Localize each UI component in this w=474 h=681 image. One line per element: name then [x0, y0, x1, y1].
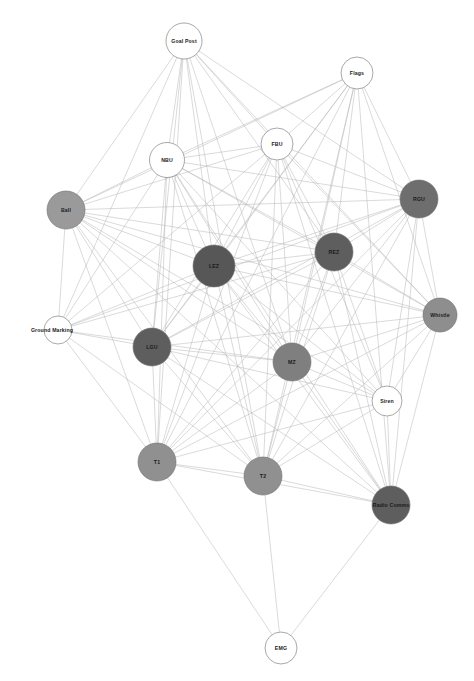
graph-edge [58, 160, 167, 330]
graph-edge [157, 41, 184, 462]
graph-node-lgu[interactable]: LGU [133, 328, 171, 366]
graph-node-radio_comms[interactable]: Radio Comms [372, 486, 410, 524]
graph-edge [184, 41, 419, 199]
graph-edge [152, 199, 419, 347]
node-circle-mz[interactable] [273, 343, 311, 381]
graph-edge [157, 266, 214, 462]
node-circle-lez[interactable] [193, 245, 235, 287]
node-circle-emg[interactable] [265, 632, 297, 664]
graph-node-fbu[interactable]: FBU [261, 128, 293, 160]
graph-edge [277, 144, 440, 315]
node-circle-rgu[interactable] [400, 180, 438, 218]
graph-edge [66, 210, 334, 252]
graph-node-t1[interactable]: T1 [138, 443, 176, 481]
graph-edge [152, 160, 167, 347]
graph-node-flags[interactable]: Flags [341, 57, 373, 89]
graph-edge [277, 144, 419, 199]
graph-edge [214, 266, 387, 401]
graph-edge [292, 362, 391, 505]
graph-edge [167, 160, 419, 199]
node-circle-t1[interactable] [138, 443, 176, 481]
graph-edge [184, 41, 277, 144]
node-circle-goal_post[interactable] [166, 23, 202, 59]
graph-edge [263, 476, 391, 505]
graph-edge [157, 160, 167, 462]
nodes-layer: Goal PostFlagsFBUNBURGUBallREZLEZWhistle… [31, 23, 457, 664]
graph-edge [167, 160, 263, 476]
graph-edge [357, 73, 391, 505]
graph-edge [66, 199, 419, 210]
graph-node-goal_post[interactable]: Goal Post [166, 23, 202, 59]
graph-node-nbu[interactable]: NBU [150, 143, 185, 178]
node-circle-rez[interactable] [315, 233, 353, 271]
node-circle-flags[interactable] [341, 57, 373, 89]
node-circle-ball[interactable] [47, 191, 85, 229]
graph-edge [263, 401, 387, 476]
graph-edge [277, 144, 292, 362]
graph-edge [167, 160, 440, 315]
graph-edge [58, 266, 214, 330]
node-circle-t2[interactable] [244, 457, 282, 495]
graph-edge [214, 266, 391, 505]
graph-node-rez[interactable]: REZ [315, 233, 353, 271]
graph-edge [387, 199, 419, 401]
node-circle-radio_comms[interactable] [372, 486, 410, 524]
node-circle-fbu[interactable] [261, 128, 293, 160]
graph-edge [66, 210, 214, 266]
graph-node-lez[interactable]: LEZ [193, 245, 235, 287]
graph-edge [263, 476, 281, 648]
graph-edge [157, 315, 440, 462]
graph-node-mz[interactable]: MZ [273, 343, 311, 381]
network-graph-canvas: Goal PostFlagsFBUNBURGUBallREZLEZWhistle… [0, 0, 474, 681]
graph-edge [334, 252, 391, 505]
graph-node-whistle[interactable]: Whistle [423, 298, 457, 332]
graph-edge [391, 199, 419, 505]
node-circle-siren[interactable] [372, 386, 402, 416]
graph-node-siren[interactable]: Siren [372, 386, 402, 416]
graph-node-ground_marking[interactable]: Ground Marking [31, 316, 73, 344]
node-circle-ground_marking[interactable] [44, 316, 72, 344]
node-circle-whistle[interactable] [423, 298, 457, 332]
graph-edge [292, 315, 440, 362]
graph-edge [157, 362, 292, 462]
graph-edge [357, 73, 419, 199]
graph-node-t2[interactable]: T2 [244, 457, 282, 495]
node-circle-lgu[interactable] [133, 328, 171, 366]
graph-edge [66, 73, 357, 210]
graph-edge [152, 252, 334, 347]
graph-edge [334, 73, 357, 252]
graph-edge [281, 505, 391, 648]
graph-node-ball[interactable]: Ball [47, 191, 85, 229]
edges-layer [58, 41, 440, 648]
graph-node-rgu[interactable]: RGU [400, 180, 438, 218]
graph-edge [152, 41, 184, 347]
network-graph-svg: Goal PostFlagsFBUNBURGUBallREZLEZWhistle… [0, 0, 474, 681]
graph-edge [157, 199, 419, 462]
node-circle-nbu[interactable] [150, 143, 185, 178]
graph-node-emg[interactable]: EMG [265, 632, 297, 664]
